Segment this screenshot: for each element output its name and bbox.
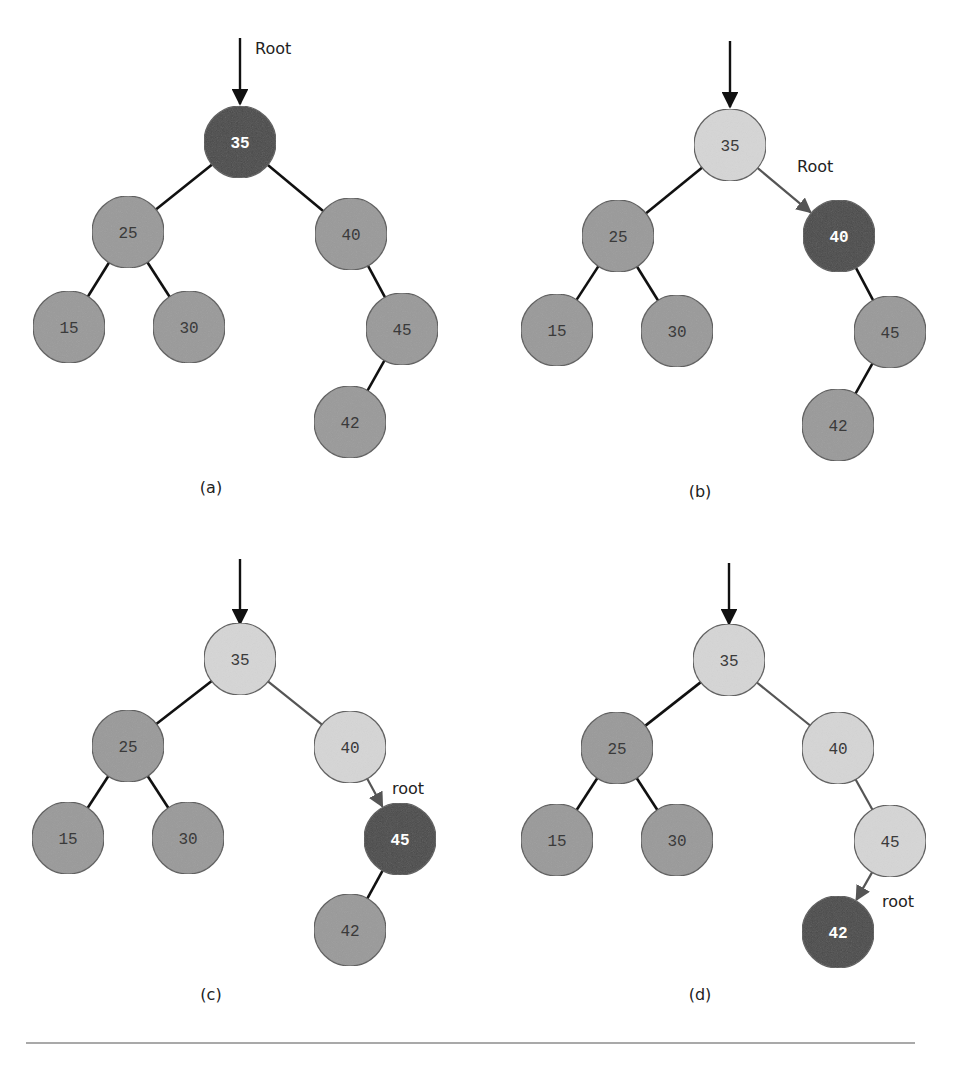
tree-node-35: 35 — [694, 109, 766, 181]
tree-node-45: 45 — [364, 803, 436, 875]
panel-c: 35254015304542root(c) — [32, 559, 436, 1004]
node-key: 42 — [828, 418, 847, 436]
panel-caption: (d) — [689, 985, 712, 1004]
root-pointer-label: root — [392, 779, 424, 798]
node-key: 40 — [341, 227, 360, 245]
tree-node-42: 42 — [314, 386, 386, 458]
tree-node-45: 45 — [366, 293, 438, 365]
node-key: 42 — [828, 925, 847, 943]
tree-edge — [147, 261, 170, 297]
panel-d: 35254015304542root(d) — [521, 563, 926, 1004]
tree-edge — [367, 360, 385, 392]
tree-node-30: 30 — [641, 295, 713, 367]
tree-edge — [636, 777, 658, 810]
root-pointer-label: Root — [797, 157, 833, 176]
node-key: 15 — [547, 833, 566, 851]
tree-node-40: 40 — [803, 200, 875, 272]
node-key: 35 — [719, 653, 738, 671]
node-key: 30 — [178, 831, 197, 849]
tree-node-45: 45 — [854, 805, 926, 877]
tree-node-40: 40 — [314, 711, 386, 783]
node-key: 45 — [392, 322, 411, 340]
tree-node-25: 25 — [582, 200, 654, 272]
tree-edge — [367, 870, 383, 900]
tree-edge — [147, 775, 169, 808]
tree-node-42: 42 — [314, 894, 386, 966]
bst-search-figure: 35254015304542Root(a)35254015304542Root(… — [0, 0, 954, 1067]
node-key: 40 — [340, 740, 359, 758]
node-key: 25 — [118, 739, 137, 757]
tree-edge — [87, 262, 109, 298]
tree-node-35: 35 — [693, 624, 765, 696]
tree-node-15: 15 — [521, 294, 593, 366]
node-key: 35 — [720, 138, 739, 156]
tree-edge — [87, 775, 109, 808]
tree-node-30: 30 — [152, 802, 224, 874]
node-key: 45 — [390, 832, 409, 850]
tree-node-30: 30 — [641, 804, 713, 876]
node-key: 42 — [340, 923, 359, 941]
tree-edge — [756, 682, 811, 726]
tree-edge — [645, 167, 703, 214]
tree-edge — [368, 265, 386, 298]
tree-node-15: 15 — [32, 802, 104, 874]
tree-edge — [855, 267, 873, 301]
tree-node-42: 42 — [802, 896, 874, 968]
node-key: 25 — [607, 741, 626, 759]
panel-b: 35254015304542Root(b) — [521, 41, 926, 501]
node-key: 25 — [118, 225, 137, 243]
tree-edge — [645, 682, 702, 727]
tree-node-15: 15 — [33, 291, 105, 363]
node-key: 35 — [230, 135, 249, 153]
tree-node-35: 35 — [204, 106, 276, 178]
tree-edge — [156, 680, 213, 724]
root-pointer-arrow — [367, 778, 383, 807]
node-key: 15 — [59, 320, 78, 338]
tree-node-40: 40 — [802, 712, 874, 784]
tree-node-25: 25 — [92, 710, 164, 782]
root-pointer-label: root — [882, 892, 914, 911]
node-key: 15 — [58, 831, 77, 849]
node-key: 45 — [880, 834, 899, 852]
tree-edge — [855, 779, 873, 811]
tree-node-45: 45 — [854, 296, 926, 368]
node-key: 30 — [667, 833, 686, 851]
tree-edge — [576, 777, 598, 810]
node-key: 35 — [230, 652, 249, 670]
tree-node-25: 25 — [581, 712, 653, 784]
root-pointer-arrow — [856, 871, 872, 899]
tree-edge — [267, 681, 322, 725]
node-key: 45 — [880, 325, 899, 343]
node-key: 40 — [828, 741, 847, 759]
node-key: 15 — [547, 323, 566, 341]
panel-caption: (b) — [689, 482, 712, 501]
tree-node-42: 42 — [802, 389, 874, 461]
root-pointer-label: Root — [255, 39, 291, 58]
node-key: 40 — [829, 229, 848, 247]
panel-caption: (a) — [200, 478, 222, 497]
tree-node-35: 35 — [204, 623, 276, 695]
tree-edge — [636, 266, 658, 302]
tree-edge — [576, 265, 599, 300]
node-key: 25 — [608, 229, 627, 247]
tree-node-40: 40 — [315, 198, 387, 270]
tree-edge — [155, 164, 212, 210]
tree-edge — [855, 363, 873, 395]
node-key: 30 — [667, 324, 686, 342]
node-key: 30 — [179, 320, 198, 338]
tree-node-30: 30 — [153, 291, 225, 363]
node-key: 42 — [340, 415, 359, 433]
panel-caption: (c) — [200, 985, 221, 1004]
tree-edge — [267, 164, 324, 211]
panel-a: 35254015304542Root(a) — [33, 38, 438, 497]
tree-node-25: 25 — [92, 196, 164, 268]
tree-node-15: 15 — [521, 804, 593, 876]
